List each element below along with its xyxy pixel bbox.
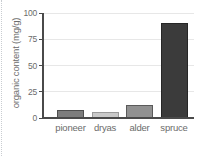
x-axis-line <box>42 117 194 119</box>
y-tick-label-75: 75 <box>13 34 37 44</box>
y-tick-label-100: 100 <box>13 8 37 18</box>
y-tick-label-25: 25 <box>13 87 37 97</box>
bar-spruce <box>161 23 188 118</box>
y-tick-label-50: 50 <box>13 61 37 71</box>
x-axis-label-spruce: spruce <box>134 122 200 133</box>
gridline-100 <box>43 13 194 14</box>
y-axis-line <box>42 13 44 119</box>
bar-chart: organic content (mg/g) 0255075100pioneer… <box>0 0 200 156</box>
page-edge-dotted-line <box>1 0 2 156</box>
